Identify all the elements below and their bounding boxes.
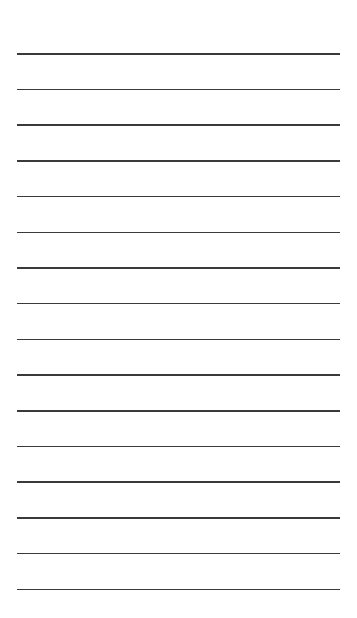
ruled-line [17,589,340,591]
ruled-line [17,374,340,376]
ruled-line [17,267,340,269]
ruled-line [17,196,340,198]
ruled-line [17,124,340,126]
ruled-line [17,160,340,162]
ruled-line [17,553,340,555]
ruled-line [17,517,340,519]
ruled-line [17,339,340,341]
ruled-line [17,303,340,305]
ruled-line [17,89,340,91]
ruled-line [17,410,340,412]
ruled-line [17,53,340,55]
ruled-line [17,232,340,234]
ruled-line [17,481,340,483]
ruled-line [17,446,340,448]
